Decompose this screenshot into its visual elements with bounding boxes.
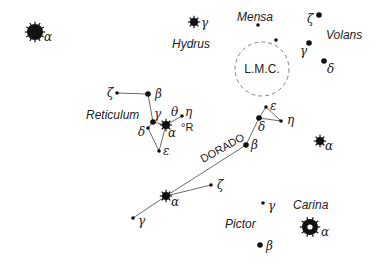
label-pictor: Pictor: [225, 217, 257, 231]
star-greek-label: η: [185, 105, 193, 119]
star-greek-label: α: [321, 225, 329, 239]
star-greek-label: α: [325, 139, 333, 153]
star-car-alpha: α: [300, 217, 329, 239]
star-greek-label: α: [44, 30, 52, 44]
star-ret-alpha: α: [160, 119, 176, 140]
label-carina: Carina: [293, 198, 329, 212]
star-dor-delta: δ: [256, 115, 265, 134]
star-greek-label: γ: [300, 44, 308, 58]
star-greek-label: ε: [163, 144, 169, 158]
star-greek-label: δ: [258, 120, 265, 134]
star-greek-label: α: [168, 126, 176, 140]
label-reticulum: Reticulum: [86, 108, 139, 122]
star-greek-label: γ: [201, 16, 209, 30]
star-greek-label: γ: [268, 199, 276, 213]
star-chart: L.M.C. αγζγδζβγαθηδεεδηβζαγαγβα Hydrus M…: [0, 0, 379, 270]
star-greek-label: ζ: [107, 86, 115, 100]
r-marker-label: °R: [181, 121, 193, 133]
star-greek-label: ε: [270, 99, 276, 113]
label-hydrus: Hydrus: [172, 37, 210, 51]
star-dor-eta: η: [279, 113, 295, 127]
star-greek-label: α: [171, 195, 179, 209]
star-greek-label: δ: [138, 125, 145, 139]
star-greek-label: γ: [154, 107, 162, 121]
star-men-b: [274, 38, 278, 42]
star-vol-zeta: ζ: [307, 12, 322, 26]
star-greek-label: β: [250, 138, 258, 152]
star-dor-alpha: α: [160, 190, 179, 209]
star-greek-label: β: [154, 87, 162, 101]
star-hyi-gamma: γ: [188, 16, 209, 30]
star-pic-gamma: γ: [261, 199, 276, 213]
star-ret-eta: θ: [171, 105, 184, 119]
star-ret-zeta: ζ: [107, 86, 119, 100]
constellation-line: [117, 93, 148, 94]
star-ret-eta-label: η: [185, 105, 193, 119]
lmc-group: L.M.C.: [235, 42, 289, 96]
star-vol-gamma: γ: [300, 40, 312, 58]
star-ret-epsilon: ε: [157, 144, 169, 158]
star-dor-gamma: γ: [131, 214, 146, 228]
label-volans: Volans: [326, 28, 362, 42]
constellation-labels: Hydrus Mensa Volans Reticulum DORADO Car…: [86, 10, 362, 231]
star-greek-label: β: [265, 239, 273, 253]
star-greek-label: δ: [327, 62, 334, 76]
label-mensa: Mensa: [237, 10, 273, 24]
constellation-line: [148, 128, 159, 151]
constellation-line: [148, 94, 153, 122]
star-greek-label: γ: [138, 214, 146, 228]
star-pic-beta: β: [257, 239, 273, 253]
star-hyi-alpha: α: [25, 22, 52, 44]
star-greek-label: ζ: [217, 178, 225, 192]
star-dor-epsilon: ε: [264, 99, 276, 113]
star-greek-label: ζ: [307, 12, 315, 26]
star-car-beta-star: α: [314, 135, 333, 153]
star-vol-delta: δ: [321, 58, 334, 76]
star-greek-label: η: [287, 113, 295, 127]
star-ret-beta: β: [145, 87, 162, 101]
star-greek-label: θ: [171, 105, 179, 119]
star-ret-delta: δ: [138, 125, 150, 139]
lmc-label: L.M.C.: [244, 62, 279, 76]
star-dor-zeta: ζ: [209, 178, 225, 192]
